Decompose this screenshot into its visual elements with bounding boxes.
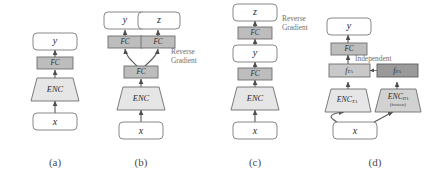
caption-d: (d) (369, 156, 382, 169)
node-a-fc-label: FC (49, 59, 59, 67)
node-a-encoder-label: ENC (46, 84, 64, 94)
node-c-encoder-label: ENC (246, 93, 264, 103)
edge-d-x-to-enc-pa (374, 112, 393, 122)
panel-b: x ENC FC FC FC y z Reverse Gradient (b) (104, 12, 198, 169)
caption-b: (b) (135, 156, 148, 169)
architecture-diagram: x ENC FC y (a) x ENC FC (0, 0, 438, 181)
annotation-d-independent: Independent (355, 54, 392, 63)
node-c-mid-label: y (252, 47, 258, 58)
caption-c: (c) (249, 156, 262, 169)
node-d-encoder-pa-note: (frozen) (390, 102, 406, 107)
annotation-b-reverse-gradient-line2: Gradient (171, 56, 198, 65)
node-b-input-label: x (138, 125, 144, 136)
edge-b-fc-to-left-branch (125, 49, 137, 66)
caption-a: (a) (49, 156, 62, 169)
node-b-output-left-label: y (122, 14, 128, 25)
node-b-output-right-label: z (156, 14, 161, 25)
node-b-encoder-label: ENC (132, 93, 150, 103)
annotation-c-reverse-gradient-line2: Gradient (282, 23, 309, 32)
node-c-fc-upper-label: FC (249, 29, 259, 37)
panel-d: x ENCTA ENCPA (frozen) fTA fPA FC y Inde… (325, 18, 421, 169)
node-b-left-fc-label: FC (119, 38, 129, 46)
node-d-fc-label: FC (343, 45, 353, 53)
figure-container: x ENC FC y (a) x ENC FC (0, 0, 438, 181)
edge-b-fc-to-right-branch (145, 49, 158, 66)
annotation-c-reverse-gradient-line1: Reverse (282, 14, 307, 23)
edge-d-x-to-enc-ta (331, 112, 344, 122)
node-a-input-label: x (52, 116, 58, 127)
node-b-shared-fc-label: FC (135, 68, 145, 76)
panel-a: x ENC FC y (a) (31, 33, 79, 169)
annotation-b-reverse-gradient-line1: Reverse (171, 47, 196, 56)
node-c-input-label: x (252, 125, 258, 136)
node-c-output-label: z (252, 6, 257, 17)
node-d-output-label: y (346, 20, 352, 31)
node-c-fc-lower-label: FC (249, 70, 259, 78)
panel-c: x ENC FC y FC z Reverse Gradient (c) (231, 4, 309, 169)
node-d-input-label: x (352, 125, 358, 136)
node-a-output-label: y (52, 35, 58, 46)
node-b-right-fc-label: FC (152, 38, 162, 46)
